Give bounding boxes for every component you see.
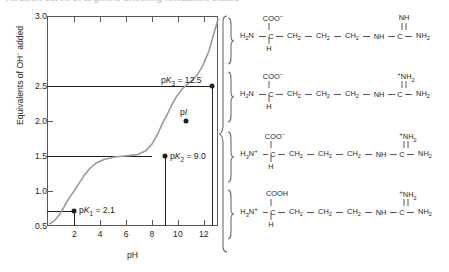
s4-ch2-b: CH2 xyxy=(315,207,335,217)
s2-nh: NH xyxy=(371,90,387,99)
s4-bond-c-h xyxy=(271,213,272,220)
structure-4: H3N+ C CH2 CH2 CH2 NH C NH2 COOH H +NH2 xyxy=(236,180,449,242)
structure-3: H3N+ C CH2 CH2 CH2 NH C NH2 COO− H +NH2 xyxy=(236,122,449,184)
s3-alpha-amino: H3N+ xyxy=(236,148,262,160)
s2-double-bond-a xyxy=(402,81,403,88)
s4-nh2-right: NH2 xyxy=(415,207,435,217)
s3-guanidino-carbon: C xyxy=(398,150,406,159)
s3-ch2-b: CH2 xyxy=(315,149,335,159)
s1-alpha-amino: H2N xyxy=(236,31,258,41)
s3-nh: NH xyxy=(373,150,389,159)
s2-ch2-a: CH2 xyxy=(284,89,304,99)
s2-bond-c-coo xyxy=(269,81,270,88)
s2-alpha-h: H xyxy=(266,102,271,111)
s2-carboxylate: COO− xyxy=(263,71,283,81)
marker-pK2 xyxy=(163,154,168,159)
s3-ch2-a: CH2 xyxy=(286,149,306,159)
s4-bond-c-cooh xyxy=(271,199,272,206)
marker-pI xyxy=(184,119,189,124)
s4-ch2-a: CH2 xyxy=(286,207,306,217)
s1-nh2-right: NH2 xyxy=(413,31,433,41)
s2-alpha-amino: H2N xyxy=(236,89,258,99)
s1-carboxylate: COO− xyxy=(263,13,283,23)
s2-nh2-right: NH2 xyxy=(413,89,433,99)
structure-2: H2N C CH2 CH2 CH2 NH C NH2 COO− H +NH2 xyxy=(236,62,449,124)
brace-structure-3-icon xyxy=(228,132,234,182)
structure-4-backbone: H3N+ C CH2 CH2 CH2 NH C NH2 xyxy=(236,206,449,218)
s2-ch2-c: CH2 xyxy=(342,89,362,99)
label-pK3: pK3 = 12.5 xyxy=(161,75,202,87)
s3-double-bond-b xyxy=(408,141,409,148)
outer-brace-icon xyxy=(219,16,227,252)
s3-carboxylate: COO− xyxy=(265,131,285,141)
marker-pK3 xyxy=(210,84,215,89)
s3-bond-c-coo xyxy=(271,141,272,148)
s4-ch2-c: CH2 xyxy=(344,207,364,217)
marker-pK1 xyxy=(72,208,77,213)
s4-alpha-h: H xyxy=(268,220,273,229)
s1-bond-c-h xyxy=(269,37,270,44)
s4-double-bond-b xyxy=(408,199,409,206)
brace-structure-4-icon xyxy=(228,190,234,239)
structure-group: H2N C CH2 CH2 CH2 NH C NH2 COO− H NH xyxy=(236,0,449,272)
s3-nh2-right: NH2 xyxy=(415,149,435,159)
plot-area: Equivalents of OH− added pH 0.5 1.0 1.5 … xyxy=(0,0,230,272)
s1-ch2-a: CH2 xyxy=(284,31,304,41)
structure-3-backbone: H3N+ C CH2 CH2 CH2 NH C NH2 xyxy=(236,148,449,160)
s2-bond-c-h xyxy=(269,95,270,102)
label-pI: pI xyxy=(180,107,187,117)
s1-guanidino-nh: NH xyxy=(399,13,410,22)
s4-guanidino-carbon: C xyxy=(398,208,406,217)
s3-bond-c-h xyxy=(271,155,272,162)
s3-ch2-c: CH2 xyxy=(344,149,364,159)
brace-structure-1-icon xyxy=(228,18,234,64)
s4-carboxyl: COOH xyxy=(266,189,288,198)
s1-double-bond-a xyxy=(402,23,403,30)
s1-nh: NH xyxy=(371,32,387,41)
s2-double-bond-b xyxy=(406,81,407,88)
s1-bond-c-coo xyxy=(269,23,270,30)
structure-1: H2N C CH2 CH2 CH2 NH C NH2 COO− H NH xyxy=(236,4,449,66)
s1-guanidino-carbon: C xyxy=(396,32,404,41)
s3-double-bond-a xyxy=(404,141,405,148)
titration-curve xyxy=(0,0,230,272)
s4-alpha-amino: H3N+ xyxy=(236,206,262,218)
s1-double-bond-b xyxy=(406,23,407,30)
label-pK1: pK1 = 2.1 xyxy=(79,205,115,217)
s4-double-bond-a xyxy=(404,199,405,206)
s4-nh: NH xyxy=(373,208,389,217)
s3-alpha-h: H xyxy=(268,162,273,171)
s1-alpha-h: H xyxy=(266,44,271,53)
s2-guanidino-carbon: C xyxy=(396,90,404,99)
brace-structure-2-icon xyxy=(228,72,234,122)
s1-ch2-c: CH2 xyxy=(342,31,362,41)
label-pK2: pK2 = 9.0 xyxy=(170,151,206,163)
s1-ch2-b: CH2 xyxy=(313,31,333,41)
titration-figure: Titration curve of arginine showing ioni… xyxy=(0,0,449,272)
s2-ch2-b: CH2 xyxy=(313,89,333,99)
